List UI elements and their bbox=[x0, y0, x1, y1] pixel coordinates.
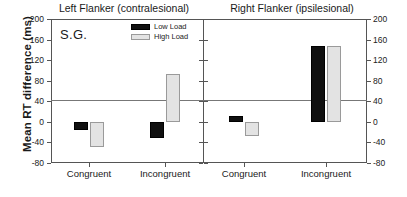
legend-swatch-high-load bbox=[131, 34, 150, 40]
x-axis-category-label: Incongruent bbox=[281, 168, 371, 179]
y-tick-label: 200 bbox=[20, 14, 44, 24]
y-tick-label: -80 bbox=[373, 158, 399, 168]
y-tick-label: 40 bbox=[20, 96, 44, 106]
chart-legend: Low Load High Load bbox=[131, 22, 188, 42]
y-tick-mark bbox=[47, 101, 51, 102]
x-axis-category-label: Congruent bbox=[199, 168, 289, 179]
bar bbox=[74, 122, 88, 130]
y-tick-label: 160 bbox=[373, 35, 399, 45]
bar bbox=[327, 46, 341, 122]
y-tick-mark bbox=[204, 122, 208, 123]
y-tick-mark bbox=[47, 19, 51, 20]
y-tick-label: 120 bbox=[20, 55, 44, 65]
y-tick-label: 0 bbox=[373, 117, 399, 127]
y-tick-mark bbox=[367, 40, 371, 41]
y-tick-mark bbox=[199, 122, 203, 123]
y-tick-mark bbox=[367, 142, 371, 143]
bar bbox=[229, 116, 243, 122]
y-tick-mark bbox=[204, 142, 208, 143]
y-tick-mark bbox=[204, 19, 208, 20]
y-tick-mark bbox=[367, 101, 371, 102]
y-tick-mark bbox=[367, 19, 371, 20]
x-tick-mark bbox=[165, 163, 166, 167]
legend-label-high-load: High Load bbox=[154, 32, 188, 42]
y-tick-mark bbox=[199, 81, 203, 82]
y-tick-mark bbox=[204, 81, 208, 82]
x-tick-mark bbox=[326, 163, 327, 167]
legend-label-low-load: Low Load bbox=[154, 22, 187, 32]
y-tick-mark bbox=[199, 19, 203, 20]
y-tick-label: 200 bbox=[373, 14, 399, 24]
y-tick-label: -80 bbox=[20, 158, 44, 168]
y-tick-mark bbox=[204, 163, 208, 164]
y-tick-label: -40 bbox=[20, 137, 44, 147]
y-tick-label: 80 bbox=[20, 76, 44, 86]
y-tick-mark bbox=[367, 81, 371, 82]
bar bbox=[150, 122, 164, 138]
zero-line-right bbox=[203, 100, 367, 101]
legend-swatch-low-load bbox=[131, 24, 150, 30]
y-tick-mark bbox=[367, 60, 371, 61]
y-tick-label: 120 bbox=[373, 55, 399, 65]
subject-annotation: S.G. bbox=[60, 27, 87, 42]
x-axis-category-label: Incongruent bbox=[120, 168, 210, 179]
y-tick-mark bbox=[199, 60, 203, 61]
chart-figure: Mean RT difference (ms) Left Flanker (co… bbox=[0, 0, 407, 197]
panel-title-left: Left Flanker (contralesional) bbox=[44, 2, 204, 14]
y-tick-mark bbox=[199, 163, 203, 164]
panel-title-right: Right Flanker (ipsilesional) bbox=[212, 2, 372, 14]
y-tick-mark bbox=[367, 122, 371, 123]
y-tick-label: 80 bbox=[373, 76, 399, 86]
y-tick-mark bbox=[47, 163, 51, 164]
x-tick-mark bbox=[89, 163, 90, 167]
y-tick-mark bbox=[204, 101, 208, 102]
plot-area-right bbox=[203, 19, 367, 163]
y-tick-mark bbox=[199, 142, 203, 143]
y-tick-label: 0 bbox=[20, 117, 44, 127]
bar bbox=[245, 122, 259, 136]
y-tick-mark bbox=[204, 40, 208, 41]
y-tick-mark bbox=[47, 142, 51, 143]
legend-item-low-load: Low Load bbox=[131, 22, 188, 32]
y-tick-label: -40 bbox=[373, 137, 399, 147]
y-tick-label: 160 bbox=[20, 35, 44, 45]
y-tick-mark bbox=[47, 60, 51, 61]
y-tick-mark bbox=[367, 163, 371, 164]
y-tick-mark bbox=[47, 40, 51, 41]
x-tick-mark bbox=[244, 163, 245, 167]
y-tick-mark bbox=[47, 81, 51, 82]
bar bbox=[311, 46, 325, 122]
y-tick-label: 40 bbox=[373, 96, 399, 106]
zero-line-left bbox=[51, 100, 203, 101]
bar bbox=[90, 122, 104, 147]
legend-item-high-load: High Load bbox=[131, 32, 188, 42]
y-tick-mark bbox=[47, 122, 51, 123]
bar bbox=[166, 74, 180, 122]
y-tick-mark bbox=[204, 60, 208, 61]
y-tick-mark bbox=[199, 101, 203, 102]
y-tick-mark bbox=[199, 40, 203, 41]
